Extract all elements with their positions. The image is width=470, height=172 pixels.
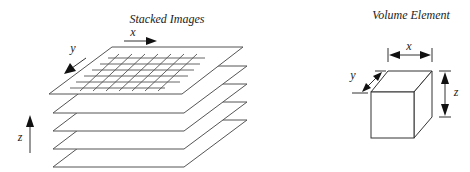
x-axis-label: x: [129, 25, 136, 39]
arrowhead-icon: [420, 51, 431, 59]
z-axis-arrow: z: [17, 115, 34, 153]
x-dimension-label: x: [405, 39, 412, 53]
arrowhead-icon: [26, 115, 34, 127]
stacked-images-group: Stacked Images x y z: [17, 12, 247, 167]
stacked-images-title: Stacked Images: [130, 12, 205, 26]
z-axis-label: z: [17, 130, 23, 144]
z-dimension-label: z: [453, 85, 459, 99]
arrowhead-icon: [389, 51, 400, 59]
volume-element-title: Volume Element: [372, 8, 450, 22]
arrowhead-icon: [64, 63, 76, 74]
cube-front-face: [371, 92, 414, 138]
y-dimension-label: y: [349, 68, 356, 82]
arrowhead-icon: [441, 104, 449, 116]
z-dimension: z: [439, 71, 459, 117]
volume-element-group: Volume Element x y z: [349, 8, 458, 138]
voxel-cube: [371, 71, 432, 138]
x-axis-arrow: x: [124, 25, 157, 45]
arrowhead-icon: [441, 72, 449, 84]
arrowhead-icon: [146, 37, 157, 45]
diagram-canvas: Stacked Images x y z: [0, 0, 470, 172]
x-dimension: x: [388, 39, 432, 62]
y-axis-label: y: [69, 41, 76, 55]
diagram-svg: Stacked Images x y z: [0, 0, 470, 172]
